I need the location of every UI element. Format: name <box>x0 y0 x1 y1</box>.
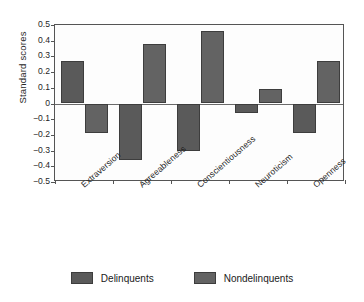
bar <box>143 44 166 104</box>
x-tick-label: Openness <box>311 182 318 190</box>
y-tick-label: −0.4 <box>33 160 50 170</box>
y-tick-mark <box>51 151 55 152</box>
bar <box>201 31 224 103</box>
legend-item: Delinquents <box>71 272 154 284</box>
bar <box>85 104 108 134</box>
y-tick-mark <box>51 119 55 120</box>
y-tick-label: 0.2 <box>38 66 50 76</box>
y-tick-mark <box>51 166 55 167</box>
y-axis-tick-labels: 0.50.40.30.20.10−0.1−0.2−0.3−0.4−0.5 <box>20 22 50 182</box>
legend-swatch <box>194 272 216 284</box>
x-tick-mark <box>345 180 346 184</box>
bar <box>235 104 258 113</box>
y-tick-mark <box>51 41 55 42</box>
y-tick-mark <box>51 72 55 73</box>
y-tick-label: −0.5 <box>33 176 50 186</box>
bar <box>259 89 282 103</box>
legend-label: Delinquents <box>101 273 154 284</box>
y-tick-label: 0 <box>45 98 50 108</box>
legend-swatch <box>71 272 93 284</box>
x-axis-tick-labels: ExtraversionAgreeablenessConscientiousne… <box>54 182 344 262</box>
plot-area <box>54 24 344 181</box>
y-tick-mark <box>51 25 55 26</box>
bar <box>119 104 142 161</box>
y-tick-label: 0.4 <box>38 35 50 45</box>
y-tick-label: 0.5 <box>38 19 50 29</box>
y-tick-mark <box>51 104 55 105</box>
y-tick-mark <box>51 135 55 136</box>
y-tick-label: 0.3 <box>38 50 50 60</box>
y-tick-label: −0.3 <box>33 145 50 155</box>
x-tick-label: Conscientiousness <box>195 182 202 190</box>
y-tick-label: 0.1 <box>38 82 50 92</box>
y-tick-label: −0.1 <box>33 113 50 123</box>
y-tick-label: −0.2 <box>33 129 50 139</box>
y-tick-mark <box>51 56 55 57</box>
x-tick-label: Agreeableness <box>137 182 144 190</box>
legend-label: Nondelinquents <box>224 273 294 284</box>
chart-figure: Standard scores 0.50.40.30.20.10−0.1−0.2… <box>0 0 364 302</box>
chart-legend: DelinquentsNondelinquents <box>0 272 364 284</box>
bar <box>293 104 316 134</box>
x-tick-label: Extraversion <box>79 182 86 190</box>
bar <box>317 61 340 103</box>
x-tick-label: Neuroticism <box>253 182 260 190</box>
legend-item: Nondelinquents <box>194 272 294 284</box>
bar <box>61 61 84 103</box>
y-tick-mark <box>51 88 55 89</box>
